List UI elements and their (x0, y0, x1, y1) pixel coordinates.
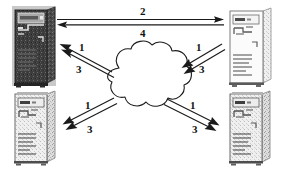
computer-tower-top-right (229, 8, 271, 87)
arrow-top-outbound (57, 16, 224, 23)
arrow-label-tr-upper: 1 (196, 42, 202, 53)
cloud-outline (108, 41, 192, 106)
arrow-label-top-return: 4 (140, 28, 146, 39)
arrow-label-bl-lower: 3 (87, 124, 93, 135)
arrow-label-bl-upper: 1 (85, 100, 91, 111)
arrow-label-tl-upper: 1 (79, 42, 85, 53)
computer-tower-bottom-left (14, 91, 55, 166)
arrow-pair-top-left (60, 44, 115, 78)
diagram-canvas (0, 0, 283, 172)
arrow-label-tr-lower: 3 (199, 64, 205, 75)
computer-tower-bottom-right (229, 91, 270, 166)
arrow-tl-lower (61, 50, 114, 78)
computer-tower-top-left (12, 6, 56, 88)
network-diagram: 2 4 1 3 1 3 1 3 1 3 (0, 0, 283, 172)
arrow-label-top-outbound: 2 (140, 6, 146, 17)
network-cloud (108, 41, 192, 106)
arrow-label-tl-lower: 3 (76, 64, 82, 75)
arrow-tl-upper (60, 44, 113, 72)
arrow-label-br-lower: 3 (192, 124, 198, 135)
arrow-label-br-upper: 1 (190, 100, 196, 111)
